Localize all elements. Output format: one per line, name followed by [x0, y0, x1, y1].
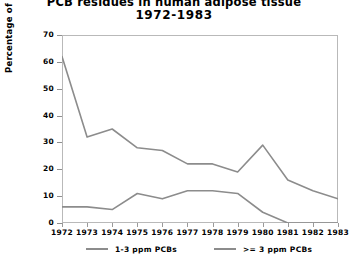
- legend-swatch-icon: [214, 248, 236, 250]
- x-axis-tick-mark: [313, 223, 314, 227]
- y-axis-tick-label: 30: [32, 138, 54, 146]
- x-axis-tick-label: 1983: [321, 228, 353, 237]
- y-axis-tick-label: 0: [32, 219, 54, 227]
- x-axis-tick-mark: [263, 223, 264, 227]
- legend-item-1[interactable]: >= 3 ppm PCBs: [214, 243, 312, 255]
- legend-label: 1-3 ppm PCBs: [115, 245, 177, 254]
- x-axis-tick-mark: [87, 223, 88, 227]
- y-axis-tick-labels: 010203040506070: [28, 0, 54, 258]
- chart-legend: 1-3 ppm PCBs>= 3 ppm PCBs: [62, 243, 338, 257]
- y-axis-tick-label: 50: [32, 85, 54, 93]
- legend-label: >= 3 ppm PCBs: [243, 245, 312, 254]
- legend-item-0[interactable]: 1-3 ppm PCBs: [86, 243, 177, 255]
- x-axis-tick-mark: [137, 223, 138, 227]
- legend-swatch-icon: [86, 248, 108, 250]
- x-axis-tick-mark: [162, 223, 163, 227]
- series-line-1: [62, 191, 338, 223]
- y-axis-title-wrapper: Percentage of population with PCB detect…: [2, 29, 16, 225]
- x-axis-tick-mark: [213, 223, 214, 227]
- x-axis-tick-mark: [62, 223, 63, 227]
- y-axis-tick-label: 70: [32, 31, 54, 39]
- y-axis-tick-label: 20: [32, 165, 54, 173]
- x-axis-tick-mark: [112, 223, 113, 227]
- x-axis-tick-mark: [187, 223, 188, 227]
- series-line-0: [62, 56, 338, 198]
- y-axis-tick-label: 60: [32, 58, 54, 66]
- x-axis-tick-mark: [338, 223, 339, 227]
- x-axis-tick-mark: [238, 223, 239, 227]
- y-axis-tick-label: 40: [32, 112, 54, 120]
- y-axis-tick-label: 10: [32, 192, 54, 200]
- x-axis-tick-mark: [288, 223, 289, 227]
- plot-lines: [62, 35, 338, 223]
- y-axis-title: Percentage of population with PCB detect…: [2, 0, 16, 73]
